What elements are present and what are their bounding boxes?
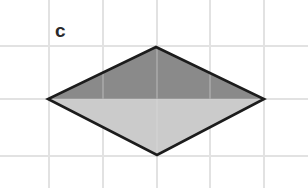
panel-label-c: c — [55, 21, 66, 40]
figure-panel: c — [0, 0, 308, 188]
rhombus-diagram — [0, 0, 308, 188]
